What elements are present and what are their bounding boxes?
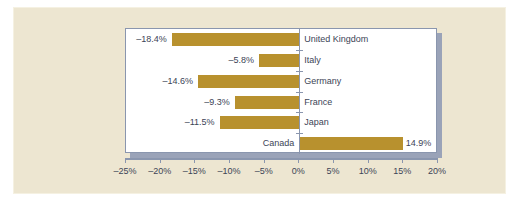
category-label-italy: Italy — [304, 53, 321, 67]
zero-axis-tick — [296, 50, 303, 51]
figure-frame: –18.4%United Kingdom–5.8%Italy–14.6%Germ… — [13, 7, 506, 194]
x-axis-tick — [437, 158, 438, 163]
x-axis-tick-label: –20% — [148, 165, 171, 177]
x-axis-tick — [333, 158, 334, 163]
bar-canada — [299, 137, 402, 150]
x-axis-tick — [402, 158, 403, 163]
zero-axis-tick — [296, 133, 303, 134]
bar-france — [235, 96, 299, 109]
x-axis-tick-label: 15% — [393, 165, 411, 177]
x-axis-tick — [298, 158, 299, 163]
x-axis-tick-label: 0% — [292, 165, 305, 177]
bar-value-label: –11.5% — [185, 115, 215, 129]
x-axis-tick-label: 10% — [359, 165, 377, 177]
x-axis-tick-label: –10% — [217, 165, 240, 177]
category-label-canada: Canada — [263, 136, 295, 150]
bar-row: –14.6%Germany — [126, 71, 436, 92]
zero-axis-tick — [296, 71, 303, 72]
plot-area: –18.4%United Kingdom–5.8%Italy–14.6%Germ… — [125, 28, 437, 153]
category-label-france: France — [304, 95, 332, 109]
x-axis-tick — [125, 158, 126, 163]
bar-united-kingdom — [172, 33, 300, 46]
category-label-united-kingdom: United Kingdom — [304, 32, 368, 46]
x-axis-tick — [229, 158, 230, 163]
x-axis-tick-label: –25% — [113, 165, 136, 177]
plot-shadow — [437, 33, 442, 158]
zero-axis-tick — [296, 112, 303, 113]
bar-row: –18.4%United Kingdom — [126, 29, 436, 50]
bar-row: 14.9%Canada — [126, 133, 436, 154]
bar-row: –11.5%Japan — [126, 112, 436, 133]
bar-japan — [220, 116, 300, 129]
x-axis-line — [125, 158, 437, 160]
x-axis-tick — [160, 158, 161, 163]
x-axis-tick-label: 5% — [326, 165, 339, 177]
zero-axis-tick — [296, 92, 303, 93]
bar-value-label: –18.4% — [136, 32, 167, 46]
bar-row: –9.3%France — [126, 92, 436, 113]
category-label-germany: Germany — [304, 74, 341, 88]
bar-germany — [198, 75, 299, 88]
bar-value-label: 14.9% — [406, 136, 432, 150]
bar-value-label: –9.3% — [204, 95, 230, 109]
x-axis-tick-label: –15% — [183, 165, 206, 177]
x-axis-tick — [368, 158, 369, 163]
x-axis-tick — [264, 158, 265, 163]
x-axis-tick-label: –5% — [255, 165, 273, 177]
x-axis-tick — [194, 158, 195, 163]
bar-italy — [259, 54, 299, 67]
x-axis-tick-label: 20% — [428, 165, 446, 177]
bar-row: –5.8%Italy — [126, 50, 436, 71]
bar-value-label: –5.8% — [229, 53, 255, 67]
bar-value-label: –14.6% — [163, 74, 194, 88]
category-label-japan: Japan — [304, 115, 329, 129]
